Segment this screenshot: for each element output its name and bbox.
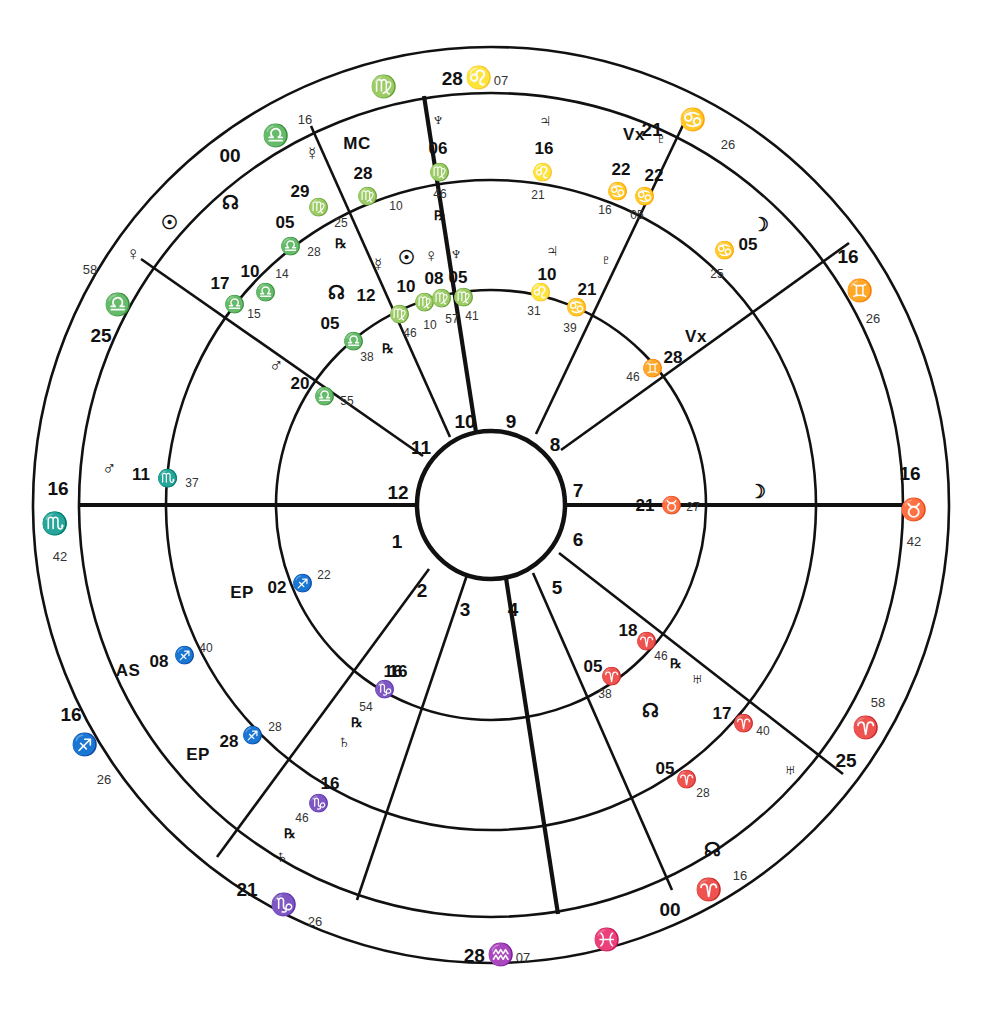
retrograde-icon-mercury-inner: ℞ xyxy=(382,342,394,355)
sagittarius-icon-as: ♐ xyxy=(174,647,195,664)
house-number-5: 5 xyxy=(552,578,563,597)
sagittarius-icon-ep1: ♐ xyxy=(292,575,313,592)
libra-icon-venus-outer: ♎ xyxy=(224,296,245,313)
cusp-dsc-deg: 16 xyxy=(899,464,920,483)
cusp-6-min: 26 xyxy=(97,773,111,786)
saturn-inner-deg: 16 xyxy=(321,775,340,792)
retrograde-icon-saturn-inner: ℞ xyxy=(284,827,296,840)
cancer-icon: ♋ xyxy=(679,109,706,131)
north-node-icon-inner: ☊ xyxy=(328,283,345,302)
leo-icon-jupiter-outer: ♌ xyxy=(532,164,553,181)
house-number-2: 2 xyxy=(417,581,428,600)
libra-icon-mars-inner: ♎ xyxy=(314,388,335,405)
snode-inner-min: 28 xyxy=(696,787,709,799)
cusp-asc-min: 42 xyxy=(53,550,67,563)
taurus-icon: ♉ xyxy=(900,499,927,521)
neptune-inner-deg: 05 xyxy=(449,269,468,286)
cancer-icon-vertex-outer: ♋ xyxy=(607,183,628,200)
neptune-outer-min: 46 xyxy=(433,188,446,200)
nnode-outer-min: 28 xyxy=(307,246,320,258)
east-point-label-2: EP xyxy=(186,746,210,763)
cusp-asc-deg: 16 xyxy=(47,479,68,498)
center-circle xyxy=(417,431,565,579)
as-min: 40 xyxy=(199,642,212,654)
ep1-deg: 02 xyxy=(268,579,287,596)
sagittarius-icon-ep2: ♐ xyxy=(242,727,263,744)
marker-virgo-icon: ♍ xyxy=(370,76,397,98)
retrograde-icon-saturn-outer: ℞ xyxy=(351,716,363,729)
nnode-inner-min: 38 xyxy=(360,351,373,363)
house-number-6: 6 xyxy=(573,530,584,549)
mars-scorpio-deg: 11 xyxy=(132,466,150,483)
cusp-dsc-min: 42 xyxy=(907,535,921,548)
venus-inner-min: 57 xyxy=(445,313,458,325)
saturn-icon-inner: ♄ xyxy=(275,847,289,866)
cusp-2-min: 58 xyxy=(871,696,885,709)
vertex-outer-deg: 22 xyxy=(612,161,631,178)
pluto-inner-min: 39 xyxy=(563,322,576,334)
moon-inner-deg: 21 xyxy=(636,497,655,514)
libra-icon-nnode-outer: ♎ xyxy=(280,238,301,255)
sun-outer-deg: 10 xyxy=(241,263,260,280)
mercury-icon-outer: ☿ xyxy=(305,144,319,163)
house-number-3: 3 xyxy=(460,600,471,619)
leo-icon: ♌ xyxy=(465,67,492,89)
cusp-line-3 xyxy=(357,575,467,900)
vertex-outer-min: 16 xyxy=(598,204,611,216)
sun-inner-min: 10 xyxy=(423,319,436,331)
node-icon-bottom: ☊ xyxy=(704,840,721,859)
cusp-8-min: 58 xyxy=(83,263,97,276)
nnode-inner-deg: 05 xyxy=(321,315,340,332)
cusp-5-min: 26 xyxy=(308,915,322,928)
as-deg: 08 xyxy=(150,653,169,670)
sun-icon-outer: ☉ xyxy=(161,213,178,232)
cusp-line-8 xyxy=(561,243,849,450)
nnode-outer-deg: 05 xyxy=(276,214,295,231)
pluto-inner-deg: 21 xyxy=(578,281,597,298)
scorpio-icon-outer: ♏ xyxy=(41,513,68,535)
capricorn-icon-saturn-inner: ♑ xyxy=(308,795,329,812)
south-node-icon-inner: ☊ xyxy=(642,701,659,720)
aquarius-icon: ♒ xyxy=(487,944,514,966)
cancer-icon-pluto-inner: ♋ xyxy=(566,299,587,316)
saturn-inner-min: 46 xyxy=(295,812,308,824)
cusp-12-min: 26 xyxy=(866,312,880,325)
retrograde-icon-neptune-outer: ℞ xyxy=(434,209,446,222)
venus-icon-inner: ♀ xyxy=(424,246,438,265)
pluto-icon-outer: ♇ xyxy=(654,129,668,148)
ep2-deg: 28 xyxy=(220,733,239,750)
cusp-mc-deg: 28 xyxy=(442,69,463,88)
astrology-chart-wheel: 28 ♌ 07 ♍ 21 ♋ 26 16 ♊ 26 16 ♉ 42 58 ♈ 2… xyxy=(0,0,982,1009)
house-number-1: 1 xyxy=(392,532,403,551)
venus-outer-deg: 17 xyxy=(211,275,230,292)
north-node-icon-outer: ☊ xyxy=(222,193,239,212)
cusp-5-deg: 21 xyxy=(236,880,257,899)
sagittarius-icon-outer: ♐ xyxy=(71,734,98,756)
jupiter-icon-outer: ♃ xyxy=(538,111,552,130)
mars-inner-min: 55 xyxy=(340,395,353,407)
mc-min: 10 xyxy=(389,200,402,212)
saturn-outer-min: 54 xyxy=(359,701,372,713)
sun-icon-inner: ☉ xyxy=(398,248,415,267)
marker-pisces-icon: ♓ xyxy=(593,929,620,951)
outer-cusp-mc: 28 ♌ 07 xyxy=(442,67,509,89)
mars-icon-inner: ♂ xyxy=(269,355,283,374)
retrograde-icon-uranus-outer: ℞ xyxy=(670,657,682,670)
taurus-icon-moon-inner: ♉ xyxy=(661,497,682,514)
cancer-icon-moon-outer: ♋ xyxy=(714,242,735,259)
venus-outer-min: 15 xyxy=(247,308,260,320)
house-number-11: 11 xyxy=(411,438,431,457)
aries-icon-node-outer: ♈ xyxy=(601,668,622,685)
capricorn-icon-saturn-outer: ♑ xyxy=(374,681,395,698)
vertex-label-inner: Vx xyxy=(685,328,707,345)
virgo-icon-mc: ♍ xyxy=(357,188,378,205)
mars-scorpio-min: 37 xyxy=(185,477,198,489)
cusp-line-5 xyxy=(533,573,672,890)
cusp-6-deg: 16 xyxy=(60,705,81,724)
neptune-inner-min: 41 xyxy=(465,310,478,322)
cusp-mc-min: 07 xyxy=(494,74,508,87)
mercury-icon-inner: ☿ xyxy=(371,255,385,274)
cusp-ic-min: 07 xyxy=(516,951,530,964)
jupiter-inner-min: 31 xyxy=(527,305,540,317)
jupiter-inner-deg: 10 xyxy=(538,266,557,283)
